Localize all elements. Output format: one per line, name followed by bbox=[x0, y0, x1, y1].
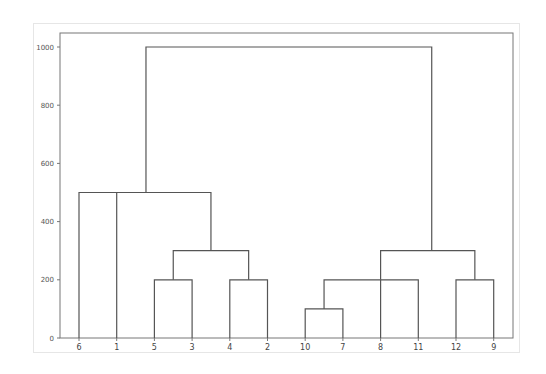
leaf-label: 4 bbox=[227, 343, 232, 352]
leaf-label: 6 bbox=[76, 343, 81, 352]
leaf-label: 3 bbox=[190, 343, 195, 352]
leaf-label: 9 bbox=[491, 343, 496, 352]
leaf-label: 5 bbox=[152, 343, 157, 352]
y-tick-label: 0 bbox=[50, 335, 54, 343]
dendrogram-link bbox=[305, 309, 343, 338]
y-tick-label: 1000 bbox=[36, 44, 54, 52]
dendrogram-links bbox=[79, 47, 494, 338]
dendrogram-link bbox=[173, 251, 248, 280]
y-tick-label: 600 bbox=[41, 160, 54, 168]
dendrogram-link bbox=[146, 47, 432, 251]
x-axis: 615342107811129 bbox=[76, 338, 496, 352]
leaf-label: 10 bbox=[300, 343, 310, 352]
plot-area bbox=[60, 33, 513, 338]
dendrogram-link bbox=[79, 193, 211, 339]
y-axis: 02004006008001000 bbox=[36, 44, 60, 343]
leaf-label: 2 bbox=[265, 343, 270, 352]
y-tick-label: 800 bbox=[41, 102, 54, 110]
leaf-label: 11 bbox=[413, 343, 423, 352]
dendrogram-link bbox=[154, 280, 192, 338]
leaf-label: 12 bbox=[451, 343, 461, 352]
dendrogram-link bbox=[381, 251, 475, 280]
y-tick-label: 200 bbox=[41, 276, 54, 284]
dendrogram-link bbox=[230, 280, 268, 338]
leaf-label: 1 bbox=[114, 343, 119, 352]
leaf-label: 8 bbox=[378, 343, 383, 352]
y-tick-label: 400 bbox=[41, 218, 54, 226]
dendrogram-link bbox=[456, 280, 494, 338]
leaf-label: 7 bbox=[340, 343, 345, 352]
dendrogram-chart: 02004006008001000 615342107811129 bbox=[0, 0, 546, 374]
